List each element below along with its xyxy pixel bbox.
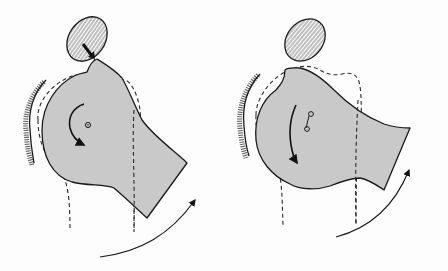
left-hatched-oval [58,9,115,69]
left-shaded-bone [42,59,187,218]
diagram-canvas [0,0,448,271]
right-shaded-bone [256,68,410,190]
left-panel [26,9,195,257]
diagram-svg [0,0,448,271]
right-hatched-oval [276,11,333,69]
right-panel [240,11,410,237]
